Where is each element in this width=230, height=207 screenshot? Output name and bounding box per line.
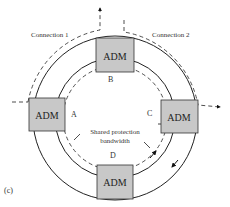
adm-top-label: ADM [103,51,126,62]
point-c-label: C [147,109,152,118]
adm-left-label: ADM [35,110,58,121]
adm-bottom-label: ADM [103,177,126,188]
panel-label: (c) [4,186,13,195]
ring-network-diagram: ADM ADM ADM ADM A B C D Connection 1 Con… [0,0,230,207]
point-d-label: D [110,151,116,160]
connection-1-label: Connection 1 [31,31,69,39]
connection-1-path [12,8,100,102]
center-label-line2: bandwidth [100,137,130,145]
adm-node-left: ADM [29,98,65,131]
adm-right-label: ADM [167,112,190,123]
point-b-label: B [108,75,113,84]
break-mark-left [74,134,80,140]
adm-node-top: ADM [96,38,134,72]
connection-2-label: Connection 2 [152,31,190,39]
point-a-label: A [71,110,77,119]
outer-ring-arrow [172,160,178,167]
adm-node-right: ADM [161,100,198,133]
break-mark-right [144,142,150,148]
adm-node-bottom: ADM [97,165,133,199]
inner-ring-arrow [150,151,156,158]
center-label-line1: Shared protection [90,128,140,136]
